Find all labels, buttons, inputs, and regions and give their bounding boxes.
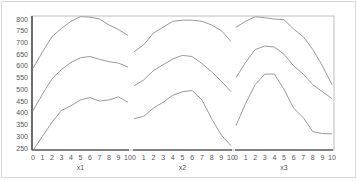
x-tick-label: 6	[88, 154, 92, 161]
x-tick-label: 10	[328, 154, 336, 161]
x-tick-label: 4	[69, 154, 73, 161]
x-tick-label: 5	[181, 154, 185, 161]
outer-frame	[2, 2, 356, 178]
x-tick-label: 2	[151, 154, 155, 161]
x-tick-label: 1	[244, 154, 248, 161]
y-tick-label: 400	[16, 109, 28, 116]
x-tick-label: 7	[98, 154, 102, 161]
plot-frame	[32, 16, 334, 150]
y-tick-label: 300	[16, 133, 28, 140]
y-tick-label: 750	[16, 27, 28, 34]
x-tick-label: 2	[50, 154, 54, 161]
x-tick-label: 9	[320, 154, 324, 161]
x-tick-label: 1	[142, 154, 146, 161]
x-tick-label: 5	[79, 154, 83, 161]
x-axis-label: x1	[77, 164, 85, 171]
x-tick-label: 4	[171, 154, 175, 161]
line-x3-middle	[236, 46, 332, 99]
x-tick-label: 7	[301, 154, 305, 161]
line-x1-upper	[33, 17, 128, 69]
x-axis-label: x2	[179, 164, 187, 171]
x-tick-label: 6	[190, 154, 194, 161]
y-tick-label: 500	[16, 86, 28, 93]
y-tick-label: 250	[16, 145, 28, 152]
x-tick-label: 3	[263, 154, 267, 161]
x-axis-label: x3	[280, 164, 288, 171]
line-x2-lower	[134, 91, 231, 146]
y-tick-label: 350	[16, 121, 28, 128]
x-tick-label: 0	[132, 154, 136, 161]
x-tick-label: 6	[292, 154, 296, 161]
x-tick-label: 3	[60, 154, 64, 161]
x-tick-label: 8	[107, 154, 111, 161]
y-tick-label: 550	[16, 74, 28, 81]
x-tick-label: 10	[124, 154, 132, 161]
x-tick-label: 3	[161, 154, 165, 161]
line-x2-middle	[134, 55, 231, 91]
chart-container: 2503003504004505005506006507007508000123…	[0, 0, 357, 181]
x-tick-label: 8	[210, 154, 214, 161]
line-x2-upper	[134, 20, 231, 52]
x-tick-label: 7	[200, 154, 204, 161]
x-tick-label: 1	[41, 154, 45, 161]
x-tick-label: 8	[311, 154, 315, 161]
x-tick-label: 0	[234, 154, 238, 161]
x-tick-label: 9	[219, 154, 223, 161]
line-x1-lower	[33, 97, 128, 150]
x-tick-label: 9	[117, 154, 121, 161]
line-chart: 2503003504004505005506006507007508000123…	[0, 0, 357, 181]
x-tick-label: 2	[253, 154, 257, 161]
x-tick-label: 5	[282, 154, 286, 161]
line-x3-lower	[236, 74, 332, 134]
line-x1-middle	[33, 57, 128, 111]
x-tick-label: 4	[272, 154, 276, 161]
y-tick-label: 650	[16, 51, 28, 58]
y-tick-label: 450	[16, 98, 28, 105]
y-tick-label: 700	[16, 39, 28, 46]
y-tick-label: 800	[16, 16, 28, 23]
line-x3-upper	[236, 17, 332, 85]
x-tick-label: 0	[31, 154, 35, 161]
y-tick-label: 600	[16, 62, 28, 69]
